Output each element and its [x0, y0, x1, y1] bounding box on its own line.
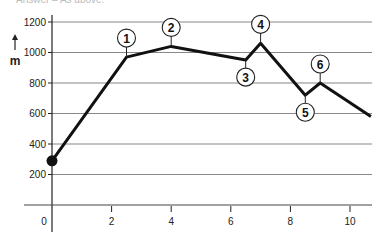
y-axis-label: m	[10, 34, 21, 68]
x-tick-label: 0	[41, 216, 47, 227]
y-tick-label: 1000	[24, 47, 47, 58]
point-annotation-4: 4	[252, 15, 270, 43]
y-tick-label: 1200	[24, 17, 47, 28]
y-tick-label: 200	[29, 169, 46, 180]
axes	[24, 15, 372, 232]
tick-labels: 200400600800100012000246810	[24, 17, 356, 228]
start-point-marker	[47, 155, 58, 166]
svg-text:4: 4	[257, 18, 264, 32]
x-tick-label: 6	[228, 216, 234, 227]
point-annotation-2: 2	[162, 18, 180, 46]
x-tick-label: 8	[288, 216, 294, 227]
svg-text:1: 1	[123, 32, 130, 46]
x-tick-label: 4	[168, 216, 174, 227]
y-tick-label: 600	[29, 108, 46, 119]
svg-text:5: 5	[302, 106, 309, 120]
x-tick-label: 2	[109, 216, 115, 227]
svg-text:2: 2	[168, 21, 175, 35]
svg-text:6: 6	[317, 58, 324, 72]
point-annotation-5: 5	[296, 95, 314, 121]
point-annotation-1: 1	[118, 29, 136, 57]
svg-text:3: 3	[242, 71, 249, 85]
point-annotation-6: 6	[311, 55, 329, 83]
x-tick-label: 10	[344, 216, 356, 227]
y-tick-label: 400	[29, 139, 46, 150]
y-tick-label: 800	[29, 78, 46, 89]
point-annotations: 123456	[118, 15, 330, 121]
elevation-chart: 200400600800100012000246810 m 123456	[0, 0, 372, 240]
point-annotation-3: 3	[237, 60, 255, 86]
y-unit-label: m	[10, 54, 21, 68]
